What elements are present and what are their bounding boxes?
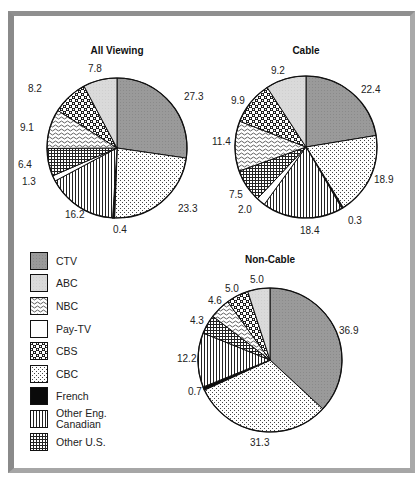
legend-label: CTV: [56, 256, 77, 267]
slice-value-label: 16.2: [65, 209, 85, 220]
slice-value-label: 11.4: [212, 136, 231, 147]
slice-value-label: 9.2: [271, 65, 285, 76]
slice-value-label: 4.3: [190, 315, 204, 326]
legend-item-cbc: CBC: [30, 363, 140, 386]
legend-label: Other Eng. Canadian: [56, 408, 107, 430]
slice-value-label: 9.1: [20, 122, 34, 133]
legend-item-abc: ABC: [30, 273, 140, 296]
nbc-swatch-icon: [30, 297, 49, 316]
legend-item-ctv: CTV: [30, 250, 140, 273]
legend-label: Pay-TV: [56, 324, 91, 335]
slice-value-label: 1.3: [22, 176, 36, 187]
slice-value-label: 31.3: [250, 437, 270, 448]
pie-title: Cable: [292, 45, 320, 56]
pie-title: All Viewing: [90, 45, 143, 56]
pie-non-cable: Non-Cable36.931.30.712.24.34.65.05.0: [177, 254, 359, 448]
slice-cbc: [114, 148, 186, 218]
legend-item-nbc: NBC: [30, 295, 140, 318]
legend-label: Other U.S.: [56, 437, 106, 448]
abc-swatch-icon: [30, 274, 49, 293]
slice-value-label: 12.2: [177, 353, 197, 364]
slice-value-label: 36.9: [339, 325, 359, 336]
slice-value-label: 8.2: [28, 83, 42, 94]
slice-value-label: 2.0: [238, 204, 252, 215]
slice-value-label: 27.3: [184, 91, 204, 102]
legend-item-othereng: Other Eng. Canadian: [30, 408, 140, 431]
legend-label: CBC: [56, 369, 78, 380]
slice-value-label: 0.7: [188, 386, 202, 397]
cbs-swatch-icon: [30, 342, 49, 361]
legend-item-cbs: CBS: [30, 340, 140, 363]
pie-title: Non-Cable: [245, 254, 295, 265]
slice-ctv: [117, 78, 187, 158]
cbc-swatch-icon: [30, 365, 49, 384]
slice-value-label: 22.4: [361, 84, 381, 95]
slice-value-label: 7.8: [88, 63, 102, 74]
legend-item-paytv: Pay-TV: [30, 318, 140, 341]
slice-value-label: 23.3: [178, 203, 198, 214]
otherus-swatch-icon: [30, 433, 49, 452]
legend-label: NBC: [56, 301, 78, 312]
pie-cable: Cable22.418.90.318.42.07.511.49.99.2: [212, 45, 394, 236]
legend-label: French: [56, 391, 89, 402]
slice-value-label: 9.9: [231, 95, 245, 106]
legend-label: ABC: [56, 278, 78, 289]
slice-value-label: 0.3: [348, 215, 362, 226]
slice-value-label: 0.4: [113, 224, 127, 235]
slice-value-label: 5.0: [250, 274, 264, 285]
slice-value-label: 7.5: [229, 189, 243, 200]
legend: CTVABCNBCPay-TVCBSCBCFrenchOther Eng. Ca…: [30, 250, 140, 453]
pie-all-viewing: All Viewing27.323.30.416.21.36.49.18.27.…: [18, 45, 204, 235]
legend-item-french: French: [30, 386, 140, 409]
legend-label: CBS: [56, 346, 78, 357]
slice-value-label: 18.9: [374, 174, 394, 185]
slice-value-label: 18.4: [300, 225, 320, 236]
slice-value-label: 5.0: [225, 283, 239, 294]
paytv-swatch-icon: [30, 320, 49, 339]
slice-value-label: 4.6: [208, 295, 222, 306]
ctv-swatch-icon: [30, 252, 49, 271]
othereng-swatch-icon: [30, 410, 49, 429]
legend-item-otherus: Other U.S.: [30, 431, 140, 454]
slice-value-label: 6.4: [18, 159, 32, 170]
french-swatch-icon: [30, 387, 49, 406]
